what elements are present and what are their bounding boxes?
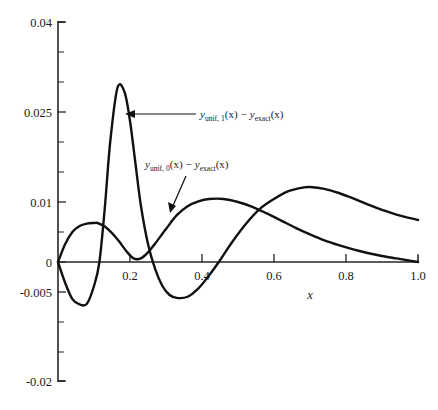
annot0-arg1: (x) <box>170 158 183 171</box>
x-axis-tick-labels: 0.2 0.4 0.6 0.8 1.0 <box>122 269 426 283</box>
y-tick-label: 0 <box>46 256 52 270</box>
annot0-sub1: unif, 0 <box>150 164 170 173</box>
x-tick-label: 1.0 <box>410 269 426 283</box>
annot0-sub2: exact <box>200 164 217 173</box>
annot1-arg1: (x) <box>225 108 238 121</box>
y-tick-label: 0.04 <box>30 16 53 30</box>
series-line-unif-1 <box>58 84 418 305</box>
series-line-unif-0 <box>58 199 418 262</box>
series-group <box>58 84 418 305</box>
annotation-unif-0: yunif, 0(x)−yexact(x) <box>144 158 229 213</box>
y-tick-label: -0.005 <box>20 286 52 300</box>
x-axis-label: x <box>306 288 313 302</box>
annotation-arrowhead <box>168 202 176 213</box>
y-tick-label: 0.01 <box>30 196 52 210</box>
y-axis-tick-labels: 0.04 0.025 0.01 0 -0.005 -0.02 <box>20 16 53 389</box>
annot1-arg2: (x) <box>271 108 284 121</box>
annot1-sub1: unif, 1 <box>205 114 225 123</box>
y-axis-ticks <box>58 22 66 381</box>
y-tick-label: 0.025 <box>24 106 52 120</box>
annot1-operator: − <box>241 108 247 120</box>
annotation-unif-1: yunif, 1(x)−yexact(x) <box>125 108 284 123</box>
annotation-leader-line <box>172 176 186 208</box>
x-tick-label: 0.8 <box>338 269 354 283</box>
annot1-sub2: exact <box>255 114 272 123</box>
x-axis-ticks <box>130 254 346 262</box>
error-comparison-line-chart: 0.04 0.025 0.01 0 -0.005 -0.02 0.2 0.4 0… <box>0 0 438 410</box>
annot0-arg2: (x) <box>216 158 229 171</box>
y-tick-label: -0.02 <box>26 375 52 389</box>
chart-figure: 0.04 0.025 0.01 0 -0.005 -0.02 0.2 0.4 0… <box>0 0 438 410</box>
annot0-operator: − <box>186 158 192 170</box>
annotation-unif-0-text: yunif, 0(x)−yexact(x) <box>144 158 229 173</box>
x-tick-label: 0.6 <box>266 269 282 283</box>
annotation-unif-1-text: yunif, 1(x)−yexact(x) <box>199 108 284 123</box>
x-tick-label: 0.2 <box>122 269 138 283</box>
